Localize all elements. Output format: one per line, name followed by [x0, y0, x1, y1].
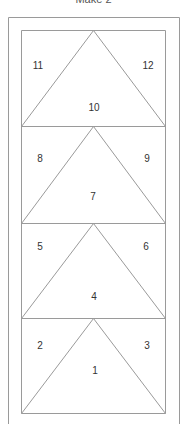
triangle-right-edge	[94, 31, 166, 127]
piece-number-label: 4	[91, 291, 97, 302]
triangle-left-edge	[22, 319, 94, 414]
paper-piecing-diagram	[0, 0, 187, 424]
piece-number-label: 6	[143, 241, 149, 252]
triangle-left-edge	[22, 127, 94, 224]
triangle-right-edge	[94, 224, 166, 319]
triangle-left-edge	[22, 31, 94, 127]
piece-number-label: 11	[33, 60, 43, 71]
piece-number-label: 12	[142, 60, 153, 71]
piece-number-label: 9	[144, 153, 150, 164]
piece-number-label: 3	[144, 340, 150, 351]
piece-number-label: 10	[88, 102, 99, 113]
triangle-right-edge	[94, 319, 166, 414]
piece-number-label: 2	[37, 340, 43, 351]
piece-number-label: 1	[92, 365, 98, 376]
triangle-right-edge	[94, 127, 166, 224]
triangle-left-edge	[22, 224, 94, 319]
piece-number-label: 5	[37, 241, 43, 252]
piece-number-label: 8	[37, 153, 43, 164]
piece-number-label: 7	[90, 191, 96, 202]
